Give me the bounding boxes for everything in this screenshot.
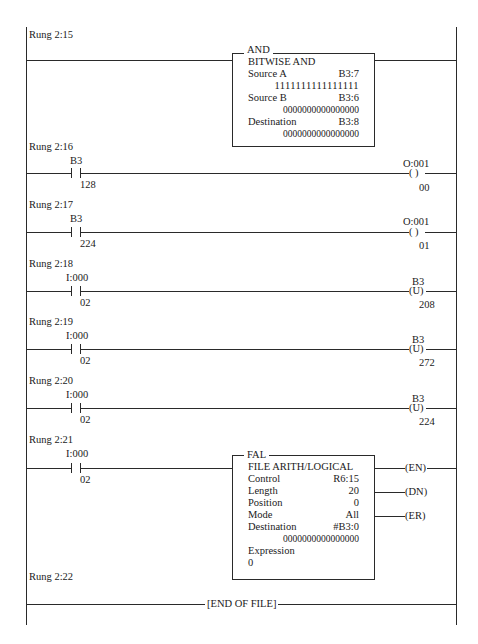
rung-label: Rung 2:16 <box>29 141 73 153</box>
coil-bit: 208 <box>419 299 435 311</box>
done-output[interactable]: (DN) <box>405 486 427 498</box>
expression-value: 0 <box>248 557 253 569</box>
dn-wire <box>374 492 406 493</box>
rung-wire <box>81 232 409 233</box>
rung-label: Rung 2:17 <box>29 199 73 211</box>
coil-bit: 224 <box>419 416 435 428</box>
destination-value: 0000000000000000 <box>283 128 359 140</box>
rung-label: Rung 2:15 <box>29 29 73 41</box>
instruction-title: AND <box>244 44 273 56</box>
position-label: Position <box>248 497 282 509</box>
mode-value: All <box>346 509 359 521</box>
rung-label: Rung 2:22 <box>29 571 73 583</box>
source-a-label: Source A <box>248 68 287 80</box>
end-of-file-marker: [END OF FILE] <box>205 598 278 610</box>
rung-wire <box>26 173 71 174</box>
instruction-subtitle: FILE ARITH/LOGICAL <box>248 461 353 473</box>
source-a-value: 1111111111111111 <box>274 80 359 92</box>
rung-label: Rung 2:21 <box>29 434 73 446</box>
source-a-address: B3:7 <box>339 68 359 80</box>
rung-wire <box>26 408 71 409</box>
right-power-rail <box>456 27 457 625</box>
enable-output[interactable]: (EN) <box>405 462 426 474</box>
position-value: 0 <box>354 497 359 509</box>
coil-bit: 00 <box>419 182 430 194</box>
source-b-label: Source B <box>248 92 287 104</box>
contact-address: I:000 <box>66 389 88 401</box>
source-b-value: 0000000000000000 <box>283 104 359 116</box>
contact-bit: 02 <box>80 297 91 309</box>
output-unlatch-coil[interactable]: (U) <box>409 343 424 355</box>
rung-label: Rung 2:20 <box>29 375 73 387</box>
instruction-title: FAL <box>244 449 269 461</box>
rung-wire <box>426 291 456 292</box>
contact-address: B3 <box>70 213 82 225</box>
control-label: Control <box>248 473 280 485</box>
rung-label: Rung 2:19 <box>29 316 73 328</box>
coil-bit: 272 <box>419 357 435 369</box>
rung-wire <box>26 349 71 350</box>
length-value: 20 <box>349 485 360 497</box>
en-wire <box>427 468 456 469</box>
rung-wire <box>425 232 456 233</box>
rung-wire <box>81 468 232 469</box>
contact-address: B3 <box>70 155 82 167</box>
contact-bit: 02 <box>80 355 91 367</box>
rung-label: Rung 2:18 <box>29 258 73 270</box>
output-energize-coil[interactable]: ( ) <box>409 167 419 179</box>
destination-label: Destination <box>248 521 296 533</box>
control-value: R6:15 <box>333 473 359 485</box>
error-output[interactable]: (ER) <box>405 510 425 522</box>
destination-label: Destination <box>248 116 296 128</box>
contact-address: I:000 <box>66 448 88 460</box>
rung-wire <box>81 291 409 292</box>
destination-address: B3:8 <box>339 116 359 128</box>
rung-wire <box>26 468 71 469</box>
expression-label: Expression <box>248 545 295 557</box>
rung-wire <box>26 60 232 61</box>
rung-wire <box>425 173 456 174</box>
examine-if-closed-contact[interactable] <box>71 463 81 473</box>
rung-wire <box>26 232 71 233</box>
contact-bit: 02 <box>80 414 91 426</box>
output-unlatch-coil[interactable]: (U) <box>409 285 424 297</box>
left-power-rail <box>26 27 27 625</box>
rung-wire <box>81 349 409 350</box>
output-unlatch-coil[interactable]: (U) <box>409 402 424 414</box>
examine-if-closed-contact[interactable] <box>71 344 81 354</box>
mode-label: Mode <box>248 509 273 521</box>
examine-if-closed-contact[interactable] <box>71 227 81 237</box>
rung-wire <box>81 408 409 409</box>
source-b-address: B3:6 <box>339 92 359 104</box>
rung-wire <box>374 60 456 61</box>
destination-address: #B3:0 <box>333 521 359 533</box>
contact-address: I:000 <box>66 272 88 284</box>
rung-wire <box>81 173 409 174</box>
examine-if-closed-contact[interactable] <box>71 168 81 178</box>
contact-bit: 02 <box>80 474 91 486</box>
er-wire <box>374 516 406 517</box>
rung-wire <box>426 408 456 409</box>
coil-bit: 01 <box>419 240 430 252</box>
contact-address: I:000 <box>66 330 88 342</box>
en-wire <box>374 468 406 469</box>
examine-if-closed-contact[interactable] <box>71 286 81 296</box>
length-label: Length <box>248 485 278 497</box>
instruction-subtitle: BITWISE AND <box>248 56 315 68</box>
examine-if-closed-contact[interactable] <box>71 403 81 413</box>
output-energize-coil[interactable]: ( ) <box>409 226 419 238</box>
contact-bit: 128 <box>80 179 96 191</box>
rung-wire <box>426 349 456 350</box>
rung-wire <box>26 291 71 292</box>
contact-bit: 224 <box>80 238 96 250</box>
destination-value: 0000000000000000 <box>283 533 359 545</box>
